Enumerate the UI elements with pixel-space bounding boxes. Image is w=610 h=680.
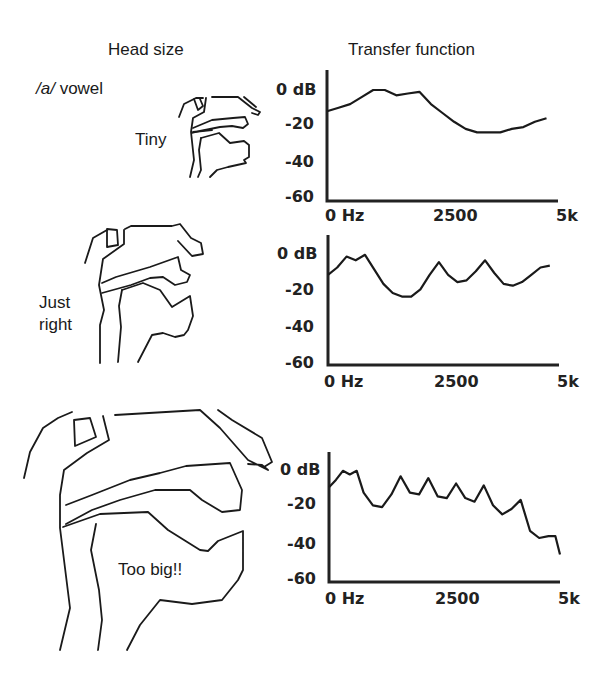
transfer-curve-tiny xyxy=(327,90,547,132)
transfer-curve-just-right xyxy=(328,255,550,297)
chart-axes-just-right xyxy=(328,235,559,365)
transfer-curve-too-big xyxy=(329,471,560,555)
transfer-function-charts xyxy=(0,0,610,680)
chart-axes-tiny xyxy=(327,70,558,201)
